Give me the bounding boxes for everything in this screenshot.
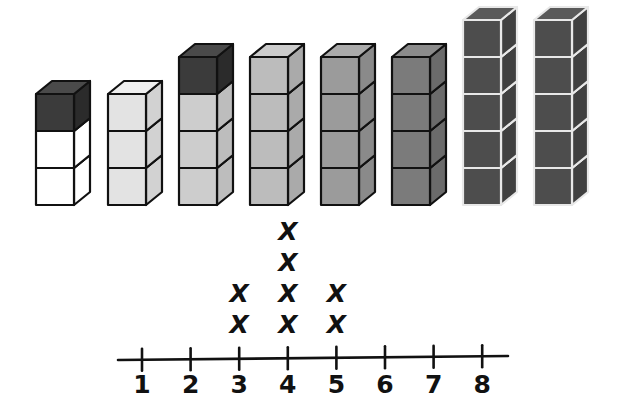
- cube-top: [250, 44, 304, 94]
- dot-mark: X: [276, 310, 299, 339]
- tick-label-3: 3: [230, 370, 247, 399]
- cube-front-face: [392, 94, 430, 131]
- dot-column-5: XX: [325, 279, 348, 339]
- dot-plot-group: XXXXXXXX: [228, 217, 348, 339]
- axis-line: [118, 356, 508, 360]
- tick-label-7: 7: [425, 370, 442, 399]
- cube-tower-4: [250, 44, 304, 205]
- cube-front-face: [250, 94, 288, 131]
- tick-label-4: 4: [279, 370, 296, 399]
- cube-tower-6: [392, 44, 446, 205]
- cube-front-face: [108, 131, 146, 168]
- cube-top: [392, 44, 446, 94]
- cube-tower-3: [179, 44, 233, 205]
- cube-tower-5: [321, 44, 375, 205]
- axis-tick-4: 4: [279, 347, 296, 399]
- tick-label-5: 5: [328, 370, 345, 399]
- cube-front-face: [534, 57, 572, 94]
- dot-mark: X: [276, 248, 299, 277]
- cube-front-face: [36, 131, 74, 168]
- number-line-group: 12345678: [118, 345, 508, 399]
- cube-tower-2: [108, 81, 162, 205]
- cube-tower-8: [534, 7, 588, 205]
- cube-top: [36, 81, 90, 131]
- dot-mark: X: [276, 217, 299, 246]
- cube-tower-7: [463, 7, 517, 205]
- dot-mark: X: [325, 310, 348, 339]
- cube-tower-1: [36, 81, 90, 205]
- scene-svg: XXXXXXXX 12345678: [0, 0, 622, 416]
- cube-front-face: [250, 57, 288, 94]
- cube-top: [108, 81, 162, 131]
- axis-tick-6: 6: [376, 346, 393, 399]
- cube-front-face: [179, 94, 217, 131]
- dot-mark: X: [276, 279, 299, 308]
- dot-mark: X: [228, 310, 251, 339]
- cube-front-face: [392, 168, 430, 205]
- axis-tick-1: 1: [133, 349, 150, 399]
- dot-column-3: XX: [228, 279, 251, 339]
- cube-front-face: [321, 57, 359, 94]
- cube-front-face: [534, 168, 572, 205]
- cube-front-face: [534, 94, 572, 131]
- cube-front-face: [463, 57, 501, 94]
- tick-label-1: 1: [133, 370, 150, 399]
- cube-front-face: [179, 131, 217, 168]
- cube-top: [179, 44, 233, 94]
- cube-front-face: [250, 131, 288, 168]
- cube-front-face: [108, 94, 146, 131]
- axis-tick-5: 5: [328, 347, 345, 399]
- cube-front-face: [392, 57, 430, 94]
- cube-front-face: [108, 168, 146, 205]
- axis-tick-8: 8: [473, 345, 490, 399]
- cube-front-face: [36, 94, 74, 131]
- cube-front-face: [179, 168, 217, 205]
- cube-top: [463, 7, 517, 57]
- cube-front-face: [179, 57, 217, 94]
- cube-front-face: [321, 131, 359, 168]
- cube-front-face: [463, 94, 501, 131]
- cube-front-face: [250, 168, 288, 205]
- dot-mark: X: [325, 279, 348, 308]
- tick-label-2: 2: [182, 370, 199, 399]
- cube-front-face: [36, 168, 74, 205]
- cube-front-face: [463, 20, 501, 57]
- cube-front-face: [534, 20, 572, 57]
- axis-tick-3: 3: [230, 348, 247, 399]
- cube-front-face: [321, 94, 359, 131]
- cube-front-face: [463, 168, 501, 205]
- cube-front-face: [321, 168, 359, 205]
- axis-tick-2: 2: [182, 348, 199, 399]
- figure-canvas: XXXXXXXX 12345678: [0, 0, 622, 416]
- tick-label-8: 8: [473, 370, 490, 399]
- cube-top: [534, 7, 588, 57]
- cube-top: [321, 44, 375, 94]
- dot-column-4: XXXX: [276, 217, 299, 339]
- axis-tick-7: 7: [425, 346, 442, 399]
- tick-label-6: 6: [376, 370, 393, 399]
- dot-mark: X: [228, 279, 251, 308]
- cube-front-face: [463, 131, 501, 168]
- cube-front-face: [534, 131, 572, 168]
- cube-towers-group: [36, 7, 588, 205]
- cube-front-face: [392, 131, 430, 168]
